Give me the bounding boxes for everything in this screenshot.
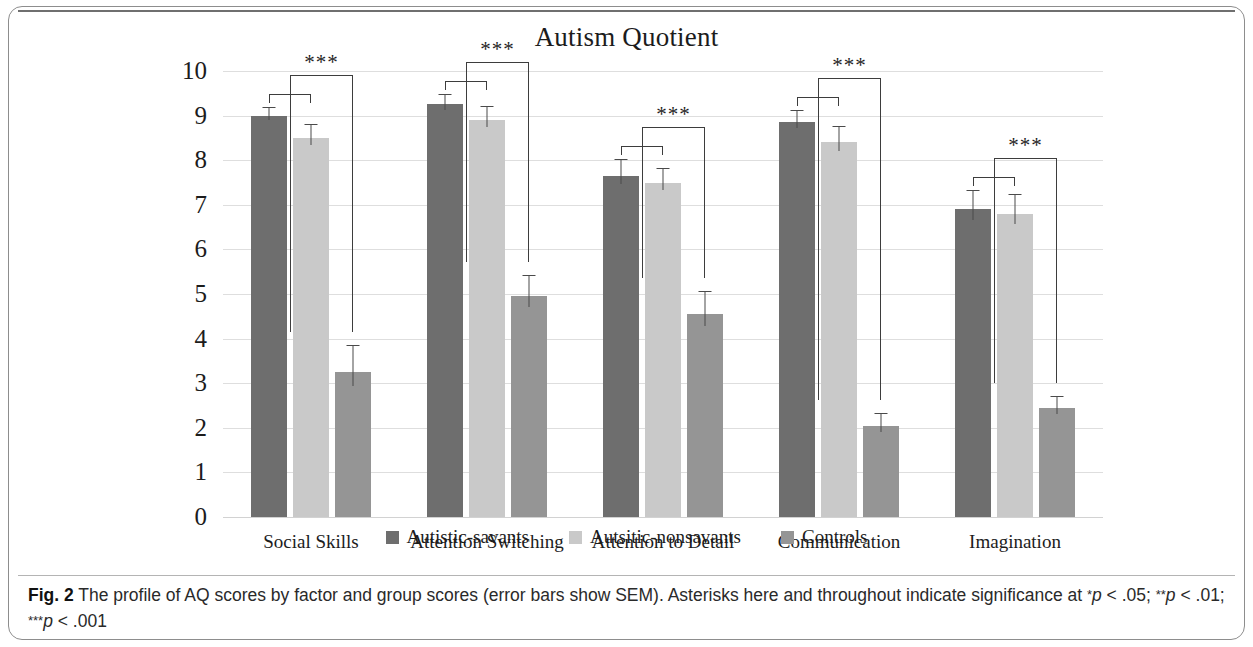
- significance-stars: ***: [832, 55, 867, 76]
- caption-p-3: p: [43, 611, 53, 631]
- bar[interactable]: [821, 142, 857, 517]
- bar-slot: [687, 71, 723, 517]
- error-bar-cap: [1009, 194, 1022, 195]
- bars: [751, 71, 927, 517]
- bar[interactable]: [469, 120, 505, 517]
- error-bar: [797, 111, 798, 128]
- caption-divider: [18, 575, 1235, 576]
- error-bar-cap: [523, 275, 536, 276]
- bar-slot: [427, 71, 463, 517]
- bars: [223, 71, 399, 517]
- error-bar-cap: [791, 110, 804, 111]
- bar-slot: [863, 71, 899, 517]
- bar-slot: [821, 71, 857, 517]
- y-axis-tick-label: 7: [195, 191, 208, 219]
- significance-stars: ***: [1008, 135, 1043, 156]
- figure-container: Autism Quotient 109876543210 ***Social S…: [0, 0, 1253, 647]
- y-axis-tick-label: 8: [195, 146, 208, 174]
- figure-label: Fig. 2: [28, 585, 74, 605]
- legend-item[interactable]: Autsitic-nonsavants: [569, 526, 741, 548]
- bar[interactable]: [645, 183, 681, 518]
- significance-stars: ***: [304, 52, 339, 73]
- figure-caption: Fig. 2 The profile of AQ scores by facto…: [28, 582, 1233, 635]
- plot-area: 109876543210 ***Social Skills***Attentio…: [223, 71, 1103, 517]
- bar[interactable]: [779, 122, 815, 517]
- bar[interactable]: [335, 372, 371, 517]
- caption-p-1-value: < .05;: [1102, 585, 1156, 605]
- error-bar: [1015, 195, 1016, 224]
- error-bar: [881, 414, 882, 431]
- bar[interactable]: [511, 296, 547, 517]
- y-axis-tick-label: 2: [195, 414, 208, 442]
- bars: [399, 71, 575, 517]
- bar-slot: [1039, 71, 1075, 517]
- significance-stars: ***: [656, 104, 691, 125]
- bar-slot: [955, 71, 991, 517]
- legend-swatch: [569, 531, 582, 544]
- bar-slot: [469, 71, 505, 517]
- error-bar: [269, 108, 270, 120]
- error-bar-cap: [1051, 396, 1064, 397]
- error-bar-cap: [615, 159, 628, 160]
- bar[interactable]: [863, 426, 899, 517]
- error-bar: [529, 276, 530, 307]
- caption-p-2: p: [1166, 585, 1176, 605]
- y-axis-tick-label: 6: [195, 235, 208, 263]
- chart-title: Autism Quotient: [18, 22, 1235, 53]
- bar[interactable]: [603, 176, 639, 517]
- error-bar: [839, 127, 840, 151]
- legend-swatch: [781, 531, 794, 544]
- error-bar: [705, 292, 706, 327]
- bar[interactable]: [687, 314, 723, 517]
- bar[interactable]: [997, 214, 1033, 517]
- error-bar: [1057, 397, 1058, 414]
- error-bar-cap: [347, 345, 360, 346]
- legend-label: Autsitic-nonsavants: [590, 526, 741, 548]
- legend-label: Autistic-savants: [407, 526, 529, 548]
- error-bar: [487, 107, 488, 128]
- error-bar-cap: [305, 124, 318, 125]
- bar-groups: ***Social Skills***Attention Switching**…: [223, 71, 1103, 517]
- bar-group: ***Imagination: [927, 71, 1103, 517]
- error-bar-cap: [699, 291, 712, 292]
- bar-slot: [335, 71, 371, 517]
- legend-swatch: [386, 531, 399, 544]
- caption-star-2: **: [1156, 587, 1166, 602]
- bar-slot: [251, 71, 287, 517]
- error-bar-cap: [439, 94, 452, 95]
- error-bar: [973, 191, 974, 220]
- chart-legend: Autistic-savantsAutsitic-nonsavantsContr…: [18, 526, 1235, 548]
- y-axis-tick-label: 9: [195, 102, 208, 130]
- bar[interactable]: [427, 104, 463, 517]
- bar[interactable]: [293, 138, 329, 517]
- gridline: [223, 517, 1103, 518]
- chart-panel: Autism Quotient 109876543210 ***Social S…: [18, 14, 1235, 570]
- y-axis-tick-label: 1: [195, 458, 208, 486]
- error-bar-cap: [481, 106, 494, 107]
- bar-group: ***Social Skills: [223, 71, 399, 517]
- bar-group: ***Communication: [751, 71, 927, 517]
- top-divider: [18, 10, 1235, 12]
- legend-label: Controls: [802, 526, 867, 548]
- caption-body: The profile of AQ scores by factor and g…: [74, 585, 1087, 605]
- error-bar: [663, 169, 664, 190]
- legend-item[interactable]: Autistic-savants: [386, 526, 529, 548]
- error-bar: [445, 95, 446, 110]
- bars: [575, 71, 751, 517]
- y-axis-tick-label: 4: [195, 325, 208, 353]
- bar[interactable]: [1039, 408, 1075, 517]
- error-bar-cap: [833, 126, 846, 127]
- error-bar: [311, 125, 312, 146]
- bar[interactable]: [251, 116, 287, 517]
- error-bar-cap: [657, 168, 670, 169]
- legend-item[interactable]: Controls: [781, 526, 867, 548]
- error-bar: [621, 160, 622, 184]
- bar-slot: [293, 71, 329, 517]
- caption-p-3-value: < .001: [53, 611, 107, 631]
- bar-slot: [645, 71, 681, 517]
- caption-star-3: ***: [28, 613, 43, 628]
- bar[interactable]: [955, 209, 991, 517]
- y-axis-tick-label: 10: [182, 57, 207, 85]
- error-bar: [353, 346, 354, 386]
- bar-slot: [603, 71, 639, 517]
